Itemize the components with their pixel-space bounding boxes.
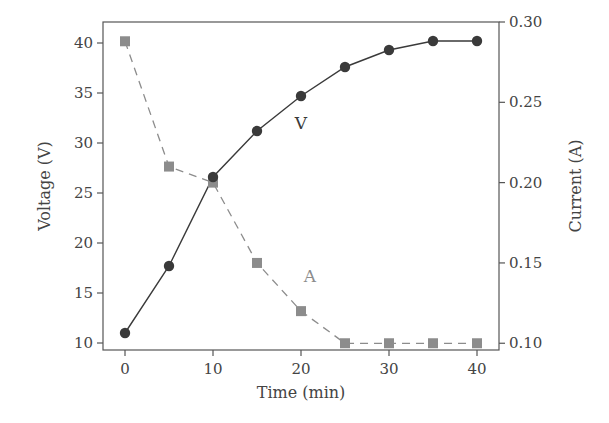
data-point-voltage [340, 62, 350, 72]
y-tick-label-right: 0.15 [509, 254, 542, 272]
y-axis-left: 10152025303540 [74, 34, 103, 352]
data-point-current [340, 338, 350, 348]
data-point-voltage [208, 172, 218, 182]
series-lines [125, 41, 477, 343]
x-tick-label: 40 [467, 360, 486, 378]
y-tick-label-left: 30 [74, 134, 93, 152]
y-tick-label-left: 10 [74, 334, 93, 352]
data-point-current [472, 338, 482, 348]
data-point-voltage [384, 45, 394, 55]
series-label-current: A [303, 266, 317, 286]
data-point-voltage [428, 36, 438, 46]
data-point-current [120, 36, 130, 46]
data-point-voltage [296, 91, 306, 101]
data-point-voltage [120, 328, 130, 338]
data-point-current [252, 258, 262, 268]
x-axis-title: Time (min) [257, 383, 346, 402]
data-point-voltage [164, 261, 174, 271]
y-tick-label-left: 40 [74, 34, 93, 52]
chart: 010203040 10152025303540 0.100.150.200.2… [0, 0, 609, 423]
x-tick-label: 30 [379, 360, 398, 378]
series-line-current [125, 41, 477, 343]
y-axis-right-title: Current (A) [566, 139, 585, 232]
x-tick-label: 10 [203, 360, 222, 378]
data-point-voltage [472, 36, 482, 46]
plot-frame [103, 22, 499, 350]
y-axis-right: 0.100.150.200.250.30 [499, 13, 542, 352]
y-tick-label-left: 25 [74, 184, 93, 202]
series-line-voltage [125, 41, 477, 333]
y-tick-label-right: 0.30 [509, 13, 542, 31]
data-point-voltage [252, 126, 262, 136]
x-tick-label: 0 [120, 360, 130, 378]
y-tick-label-left: 35 [74, 84, 93, 102]
series-label-voltage: V [294, 113, 308, 133]
series-markers [120, 36, 482, 348]
data-point-current [384, 338, 394, 348]
y-tick-label-right: 0.20 [509, 174, 542, 192]
y-tick-label-right: 0.10 [509, 334, 542, 352]
x-axis: 010203040 [120, 350, 486, 378]
y-tick-label-right: 0.25 [509, 93, 542, 111]
x-tick-label: 20 [291, 360, 310, 378]
data-point-current [428, 338, 438, 348]
y-axis-left-title: Voltage (V) [35, 141, 54, 232]
data-point-current [296, 306, 306, 316]
y-tick-label-left: 15 [74, 284, 93, 302]
data-point-current [164, 162, 174, 172]
y-tick-label-left: 20 [74, 234, 93, 252]
